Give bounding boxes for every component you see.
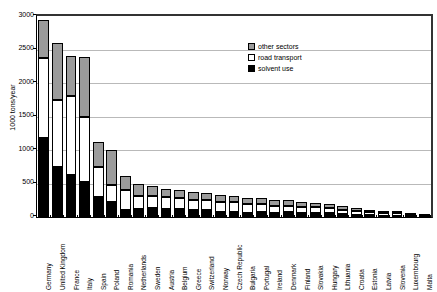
bar-segment-road-transport: [79, 117, 90, 182]
x-tick-label: Netherlands: [140, 255, 147, 290]
x-tick-label: Luxembourg: [412, 254, 419, 290]
x-tick-mark: [185, 215, 186, 218]
bar-segment-other-sectors: [256, 198, 267, 204]
x-tick-mark: [321, 215, 322, 218]
bar-segment-road-transport: [201, 200, 212, 209]
bar-segment-road-transport: [38, 58, 49, 138]
x-tick-mark: [77, 215, 78, 218]
chart-legend: other sectorsroad transportsolvent use: [248, 41, 338, 74]
bar-segment-road-transport: [324, 208, 335, 213]
legend-label: road transport: [258, 54, 302, 61]
x-tick-mark: [50, 215, 51, 218]
legend-item[interactable]: solvent use: [248, 63, 338, 74]
x-tick-label: Bulgaria: [249, 266, 256, 290]
bar-sweden[interactable]: [147, 186, 158, 217]
x-tick-label: Sweden: [154, 267, 161, 291]
bar-segment-other-sectors: [174, 190, 185, 198]
x-tick-label: Romania: [127, 264, 134, 290]
bar-segment-other-sectors: [229, 196, 240, 202]
y-axis: 050010001500200025003000: [8, 0, 34, 292]
bar-segment-road-transport: [188, 200, 199, 210]
x-tick-mark: [172, 215, 173, 218]
bar-france[interactable]: [66, 56, 77, 217]
bar-germany[interactable]: [38, 20, 49, 217]
x-tick-mark: [362, 215, 363, 218]
bar-segment-other-sectors: [337, 206, 348, 209]
x-tick-label: Switzerland: [208, 256, 215, 290]
x-tick-mark: [403, 215, 404, 218]
legend-item[interactable]: road transport: [248, 52, 338, 63]
x-tick-mark: [348, 215, 349, 218]
x-tick-label: Italy: [86, 278, 93, 290]
bar-segment-road-transport: [256, 204, 267, 212]
bar-segment-solvent-use: [66, 175, 77, 217]
x-tick-label: Germany: [45, 263, 52, 290]
bar-segment-other-sectors: [242, 198, 253, 205]
x-tick-label: Norway: [222, 268, 229, 290]
bar-belgium[interactable]: [174, 190, 185, 217]
bar-segment-road-transport: [133, 196, 144, 209]
bar-spain[interactable]: [93, 142, 104, 217]
x-tick-label: Hungary: [331, 265, 338, 290]
bar-segment-other-sectors: [133, 184, 144, 196]
x-tick-label: Greece: [195, 269, 202, 290]
x-tick-mark: [389, 215, 390, 218]
x-tick-mark: [335, 215, 336, 218]
bar-segment-solvent-use: [38, 138, 49, 217]
bar-segment-other-sectors: [296, 202, 307, 207]
legend-label: solvent use: [258, 65, 293, 72]
bar-segment-road-transport: [93, 167, 104, 197]
bar-austria[interactable]: [161, 189, 172, 217]
bar-greece[interactable]: [188, 192, 199, 217]
bar-segment-other-sectors: [188, 192, 199, 200]
y-tick-label: 500: [12, 178, 34, 185]
gray-swatch-icon: [248, 43, 255, 50]
bar-netherlands[interactable]: [133, 184, 144, 218]
stacked-bar-chart: 1000 tons/year 050010001500200025003000 …: [0, 0, 437, 292]
bar-segment-road-transport: [229, 202, 240, 211]
bar-segment-road-transport: [269, 206, 280, 213]
bar-segment-road-transport: [147, 196, 158, 208]
x-tick-label: France: [73, 270, 80, 290]
x-tick-mark: [294, 215, 295, 218]
legend-item[interactable]: other sectors: [248, 41, 338, 52]
x-tick-mark: [131, 215, 132, 218]
bar-poland[interactable]: [106, 150, 117, 217]
x-tick-label: Latvia: [385, 273, 392, 290]
bar-italy[interactable]: [79, 57, 90, 217]
bar-segment-other-sectors: [66, 56, 77, 96]
bar-switzerland[interactable]: [201, 193, 212, 217]
x-tick-label: Poland: [113, 270, 120, 290]
x-tick-mark: [36, 215, 37, 218]
bar-segment-road-transport: [106, 185, 117, 202]
bar-segment-other-sectors: [283, 200, 294, 205]
x-tick-mark: [281, 215, 282, 218]
bar-segment-road-transport: [66, 96, 77, 174]
bar-segment-solvent-use: [52, 167, 63, 217]
x-tick-label: Portugal: [263, 266, 270, 290]
black-swatch-icon: [248, 65, 255, 72]
x-tick-mark: [253, 215, 254, 218]
y-tick-label: 2000: [12, 78, 34, 85]
x-tick-label: Czech Republic: [236, 244, 243, 290]
bar-segment-other-sectors: [147, 186, 158, 196]
bar-segment-other-sectors: [79, 57, 90, 117]
x-tick-label: United Kingdom: [59, 244, 66, 290]
x-tick-label: Croatia: [358, 269, 365, 290]
bar-segment-other-sectors: [392, 211, 403, 213]
x-tick-label: Slovenia: [399, 265, 406, 290]
x-tick-label: Malta: [426, 274, 433, 290]
bar-czech-republic[interactable]: [229, 196, 240, 217]
bar-segment-road-transport: [215, 202, 226, 212]
bar-segment-solvent-use: [79, 182, 90, 218]
bar-romania[interactable]: [120, 176, 131, 217]
x-tick-mark: [63, 215, 64, 218]
x-tick-label: Slovakia: [317, 265, 324, 290]
bar-norway[interactable]: [215, 195, 226, 217]
x-tick-label: Austria: [168, 270, 175, 290]
bar-segment-road-transport: [283, 206, 294, 213]
x-tick-mark: [308, 215, 309, 218]
bar-segment-other-sectors: [201, 193, 212, 200]
bar-segment-other-sectors: [364, 210, 375, 212]
bar-united-kingdom[interactable]: [52, 43, 63, 217]
